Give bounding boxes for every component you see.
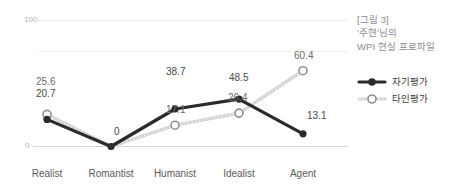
x-axis-category-3-line1: Idealist xyxy=(223,168,255,179)
data-label-self-4: 13.1 xyxy=(307,110,326,121)
data-label-others-2: 17.1 xyxy=(166,104,185,115)
chart-plot-area: 100 0 25.6 17.1 26.4 60.4 20.7 0 38.7 48… xyxy=(0,0,350,191)
legend-item-others[interactable]: 타인평가 xyxy=(357,90,465,107)
data-label-others-3: 26.4 xyxy=(228,92,247,103)
data-label-self-2: 38.7 xyxy=(166,66,185,77)
x-axis-category-4: Agent culture xyxy=(258,153,348,191)
x-axis-category-4-line1: Agent xyxy=(290,168,316,179)
data-label-self-3: 48.5 xyxy=(229,72,248,83)
data-label-others-4: 60.4 xyxy=(294,50,313,61)
figure-side-panel: [그림 3] '주현'님의 WPI 현실 프로파일 자기평가 xyxy=(357,13,465,107)
legend-marker-filled-circle-icon xyxy=(357,75,387,89)
figure-caption-line-2: '주현'님의 xyxy=(357,26,465,39)
legend-item-self[interactable]: 자기평가 xyxy=(357,73,465,90)
y-axis-label-zero: 0 xyxy=(25,141,29,150)
legend-label-others: 타인평가 xyxy=(392,93,428,105)
chart-legend: 자기평가 타인평가 xyxy=(357,73,465,107)
x-axis-category-2-line1: Humanist xyxy=(154,168,196,179)
figure-caption-line-1: [그림 3] xyxy=(357,13,465,26)
x-axis-category-0-line1: Realist xyxy=(32,168,63,179)
x-axis-category-1-line1: Romantist xyxy=(88,168,133,179)
data-label-self-0: 20.7 xyxy=(36,88,55,99)
legend-label-self: 자기평가 xyxy=(392,76,428,88)
data-label-others-0: 25.6 xyxy=(36,76,55,87)
figure-container: 100 0 25.6 17.1 26.4 60.4 20.7 0 38.7 48… xyxy=(0,0,468,191)
figure-caption-line-3: WPI 현실 프로파일 xyxy=(357,40,465,53)
data-label-self-1: 0 xyxy=(114,126,120,137)
legend-marker-open-circle-icon xyxy=(357,92,387,106)
y-axis-label-top: 100 xyxy=(24,15,37,24)
